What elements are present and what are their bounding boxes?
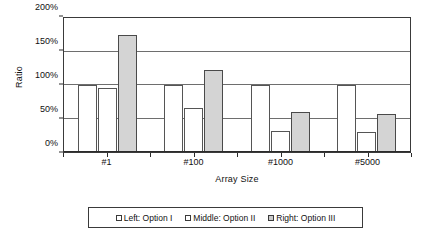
y-axis-tick-label: 150% — [35, 36, 58, 46]
bar — [118, 35, 137, 152]
bar — [357, 132, 376, 152]
legend-item-label: Left: Option I — [124, 213, 173, 223]
x-axis-tick-label: #1000 — [237, 157, 324, 167]
x-axis-line — [64, 151, 410, 152]
legend-item: Middle: Option II — [185, 213, 255, 223]
bar — [184, 108, 203, 152]
bar-group — [324, 18, 411, 152]
x-axis-tick-label: #5000 — [324, 157, 411, 167]
bar — [164, 85, 183, 152]
chart-legend: Left: Option IMiddle: Option IIRight: Op… — [88, 207, 363, 228]
bar-group — [237, 18, 324, 152]
legend-item-label: Right: Option III — [276, 213, 335, 223]
bar — [337, 85, 356, 152]
y-axis-tick-label: 0% — [45, 138, 58, 148]
bar-group — [151, 18, 238, 152]
bar — [271, 131, 290, 152]
legend-item: Left: Option I — [116, 213, 173, 223]
y-axis-tick-label: 50% — [40, 104, 58, 114]
x-axis-title: Array Size — [63, 174, 411, 184]
bar — [98, 88, 117, 152]
x-axis-tick-labels: #1#100#1000#5000 — [63, 157, 411, 167]
y-axis-tick-mark — [59, 50, 63, 51]
x-axis-tick-mark — [411, 153, 412, 157]
y-axis-tick-label: 200% — [35, 2, 58, 12]
bar-chart-figure: Ratio 0%50%100%150%200% #1#100#1000#5000… — [0, 0, 427, 237]
bar — [78, 85, 97, 152]
y-axis-tick-mark — [59, 84, 63, 85]
x-axis-tick-label: #1 — [63, 157, 150, 167]
legend-swatch-icon — [268, 215, 274, 221]
plot-area — [63, 17, 411, 153]
legend-item-label: Middle: Option II — [193, 213, 255, 223]
bar — [251, 85, 270, 152]
y-axis-tick-mark — [59, 16, 63, 17]
y-axis-tick-mark — [59, 118, 63, 119]
bar — [377, 114, 396, 152]
x-axis-tick-label: #100 — [150, 157, 237, 167]
legend-swatch-icon — [116, 215, 122, 221]
plot-area-wrapper: 0%50%100%150%200% — [63, 17, 411, 153]
y-axis-tick-label: 100% — [35, 70, 58, 80]
bar-groups — [64, 18, 410, 152]
bar-group — [64, 18, 151, 152]
legend-item: Right: Option III — [268, 213, 335, 223]
legend-swatch-icon — [185, 215, 191, 221]
bar — [204, 70, 223, 152]
bar — [291, 112, 310, 152]
y-axis-title: Ratio — [14, 47, 24, 107]
